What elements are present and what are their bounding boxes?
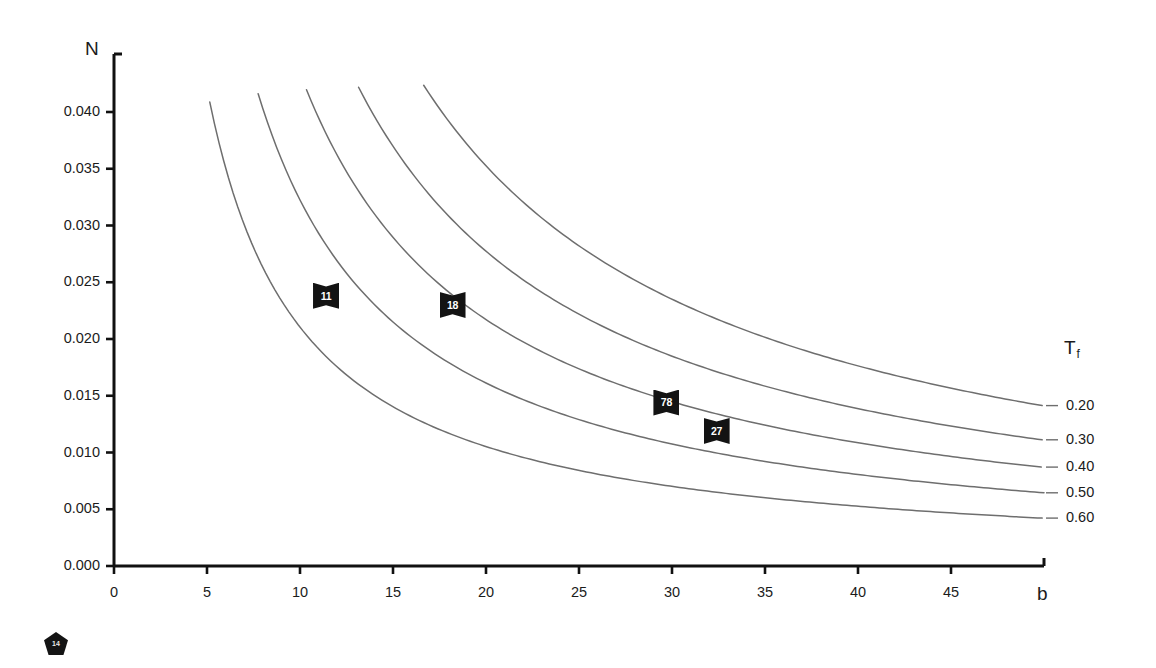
x-axis-tick-label: 5: [187, 584, 227, 600]
data-marker-label: 11: [321, 291, 332, 302]
data-marker-11[interactable]: 11: [313, 283, 339, 309]
x-axis-tick-label: 15: [373, 584, 413, 600]
x-axis-tick-label: 40: [838, 584, 878, 600]
curve-tf-0-50: [258, 94, 1044, 493]
data-marker-27[interactable]: 27: [704, 418, 730, 444]
curve-tf-0-30: [359, 87, 1043, 440]
legend-label-tf-0-40: 0.40: [1066, 458, 1094, 474]
x-axis-tick-label: 0: [94, 584, 134, 600]
y-axis-tick-label: 0.025: [38, 273, 100, 289]
legend-label-tf-0-60: 0.60: [1066, 509, 1094, 525]
data-marker-label: 78: [661, 397, 672, 408]
y-axis-tick-label: 0.000: [38, 557, 100, 573]
y-axis-tick-label: 0.020: [38, 330, 100, 346]
y-axis-tick-label: 0.040: [38, 103, 100, 119]
legend-title: Tf: [1064, 337, 1079, 359]
x-axis-title: b: [1037, 583, 1048, 605]
curve-tf-0-20: [424, 85, 1042, 405]
x-axis-tick-label: 30: [652, 584, 692, 600]
curve-tf-0-60: [210, 102, 1042, 518]
y-axis-tick-label: 0.010: [38, 444, 100, 460]
y-axis-tick-label: 0.035: [38, 160, 100, 176]
y-axis-tick-label: 0.015: [38, 387, 100, 403]
legend-label-tf-0-20: 0.20: [1066, 397, 1094, 413]
x-axis-tick-label: 45: [931, 584, 971, 600]
corner-badge-label: 14: [52, 640, 60, 647]
data-marker-label: 18: [447, 300, 458, 311]
plot-canvas: [0, 0, 1156, 668]
y-axis-tick-label: 0.005: [38, 500, 100, 516]
legend-label-tf-0-30: 0.30: [1066, 431, 1094, 447]
x-axis-tick-label: 20: [466, 584, 506, 600]
axes: [114, 54, 1044, 566]
y-axis-title: N: [85, 38, 99, 60]
legend-label-tf-0-50: 0.50: [1066, 484, 1094, 500]
legend-title-subscript: f: [1077, 347, 1080, 361]
data-marker-18[interactable]: 18: [440, 292, 466, 318]
legend-tick-marks: [1046, 406, 1058, 518]
y-axis-tick-label: 0.030: [38, 217, 100, 233]
data-marker-label: 27: [711, 426, 722, 437]
legend-title-text: T: [1064, 337, 1076, 358]
x-axis-tick-label: 35: [745, 584, 785, 600]
x-axis-tick-label: 10: [280, 584, 320, 600]
data-marker-78[interactable]: 78: [653, 390, 679, 416]
chart-figure: N b 0.0000.0050.0100.0150.0200.0250.0300…: [0, 0, 1156, 668]
x-axis-tick-label: 25: [559, 584, 599, 600]
